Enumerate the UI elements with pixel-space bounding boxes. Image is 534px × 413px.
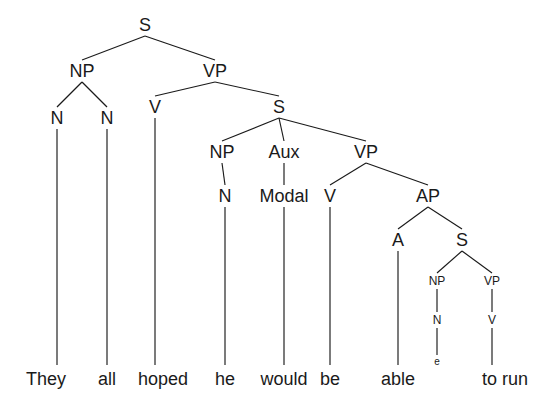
- tree-branch: [215, 82, 279, 96]
- tree-node-np-3: NP: [429, 275, 446, 287]
- tree-node-np-1: NP: [69, 62, 94, 80]
- tree-branch: [437, 251, 462, 273]
- tree-leaf-word-all: all: [98, 370, 116, 388]
- tree-branch: [279, 118, 366, 141]
- tree-node-vp-1: VP: [203, 62, 227, 80]
- tree-leaf-word-hoped: hoped: [138, 370, 188, 388]
- tree-branch: [82, 82, 107, 107]
- tree-node-vp-2: VP: [354, 143, 378, 161]
- tree-node-aux-1: Aux: [268, 143, 299, 161]
- tree-node-v-be: V: [324, 187, 336, 205]
- tree-branch: [82, 36, 145, 60]
- tree-leaf-word-would: would: [260, 370, 307, 388]
- tree-leaf-word-be: be: [320, 370, 340, 388]
- tree-node-e-trace: e: [434, 357, 440, 367]
- tree-node-s-small: S: [456, 231, 468, 249]
- tree-node-n-he: N: [219, 187, 232, 205]
- tree-node-n-they: N: [51, 109, 64, 127]
- tree-node-s-root: S: [139, 16, 151, 34]
- tree-node-modal-would: Modal: [259, 187, 308, 205]
- tree-node-v-torun: V: [488, 314, 496, 326]
- tree-branch: [145, 36, 215, 60]
- tree-branch: [222, 118, 279, 141]
- tree-leaf-word-able: able: [381, 370, 415, 388]
- tree-node-a-able: A: [392, 231, 404, 249]
- tree-branch: [366, 163, 428, 185]
- tree-node-n-trace: N: [433, 314, 442, 326]
- tree-leaf-word-torun: to run: [482, 370, 528, 388]
- tree-branch: [398, 207, 428, 229]
- tree-node-n-all: N: [101, 109, 114, 127]
- tree-branch: [462, 251, 492, 273]
- tree-leaf-word-they: They: [26, 370, 66, 388]
- tree-node-v-hoped: V: [149, 98, 161, 116]
- syntax-tree-figure: SNPVPNNVSNPAuxVPNModalVAPASNPVPNVeTheyal…: [0, 0, 534, 413]
- tree-branch: [222, 163, 225, 185]
- tree-node-s-embedded: S: [273, 98, 285, 116]
- tree-leaf-word-he: he: [215, 370, 235, 388]
- tree-branch: [57, 82, 82, 107]
- tree-branch: [155, 82, 215, 96]
- tree-node-np-2: NP: [209, 143, 234, 161]
- tree-node-ap-1: AP: [416, 187, 440, 205]
- tree-branch: [279, 118, 284, 141]
- tree-branch: [330, 163, 366, 185]
- tree-node-vp-3: VP: [484, 275, 500, 287]
- tree-branch: [428, 207, 462, 229]
